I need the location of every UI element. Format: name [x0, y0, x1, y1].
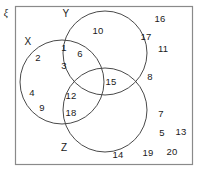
element-outside: 8: [147, 72, 152, 82]
universal-set-symbol: ξ: [4, 8, 8, 18]
element-x-only: 2: [35, 53, 40, 63]
element-z-only: 14: [113, 150, 124, 160]
element-outside: 5: [159, 128, 164, 138]
element-outside: 17: [141, 32, 152, 42]
element-outside: 19: [143, 148, 154, 158]
element-x-and-y: 3: [61, 61, 66, 71]
element-outside: 20: [167, 147, 178, 157]
element-y-only: 10: [93, 26, 104, 36]
element-x-only: 9: [39, 103, 44, 113]
element-x-and-y: 1: [61, 43, 66, 53]
set-label-z: Z: [61, 143, 67, 153]
element-x-and-z: 12: [66, 91, 77, 101]
element-x-and-z: 18: [66, 108, 77, 118]
element-x-and-y: 6: [77, 49, 82, 59]
element-y-and-z: 15: [106, 77, 117, 87]
element-outside: 13: [176, 127, 187, 137]
element-outside: 11: [158, 44, 168, 54]
venn-diagram: ξ X Y Z 2 4 9 10 14 1 6 3 15 12 18 16 17…: [0, 0, 201, 176]
set-label-x: X: [25, 37, 32, 47]
set-label-y: Y: [63, 9, 70, 19]
element-outside: 7: [158, 109, 163, 119]
element-outside: 16: [155, 14, 166, 24]
element-x-only: 4: [29, 88, 34, 98]
